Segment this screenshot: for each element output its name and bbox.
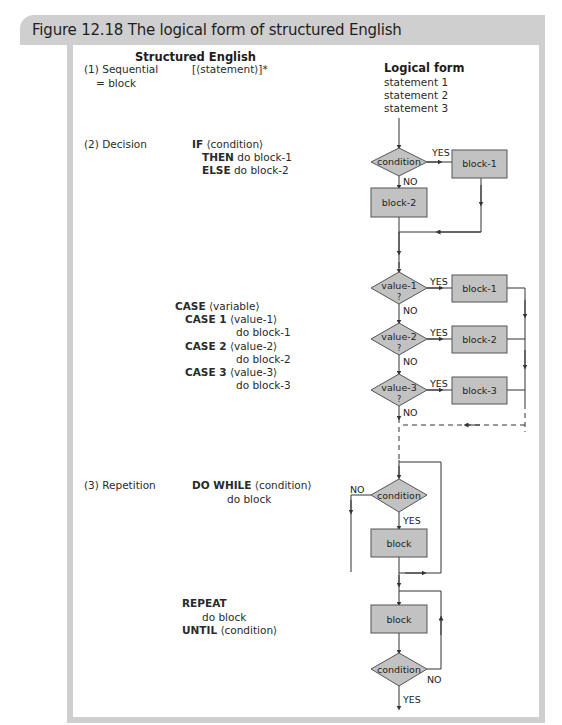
- repeat-condition-text: condition: [371, 664, 427, 675]
- decision-no-label: NO: [403, 176, 418, 187]
- case-no-1: NO: [403, 305, 418, 316]
- case-block-3-text: block-3: [452, 385, 507, 396]
- do-while-yes-label: YES: [403, 515, 421, 526]
- decision-block-2-text: block-2: [371, 197, 427, 208]
- case-yes-2: YES: [430, 327, 448, 338]
- repeat-block-text: block: [371, 614, 427, 625]
- case-no-3: NO: [403, 407, 418, 418]
- flowchart-canvas: [0, 0, 562, 725]
- do-while-no-label: NO: [350, 484, 365, 495]
- case-yes-1: YES: [430, 276, 448, 287]
- case-test-3-text: value-3: [371, 382, 427, 393]
- repeat-no-label: NO: [427, 674, 442, 685]
- case-block-2-text: block-2: [452, 334, 507, 345]
- case-test-1-text: value-1: [371, 280, 427, 291]
- case-yes-3: YES: [430, 378, 448, 389]
- case-test-2-text: value-2: [371, 331, 427, 342]
- case-test-2-question: ?: [371, 343, 427, 354]
- case-test-3-question: ?: [371, 394, 427, 405]
- do-while-block-text: block: [371, 538, 427, 549]
- decision-block-1-text: block-1: [452, 158, 507, 169]
- decision-condition-text: condition: [371, 156, 427, 167]
- case-test-1-question: ?: [371, 292, 427, 303]
- do-while-condition-text: condition: [371, 490, 427, 501]
- repeat-yes-label: YES: [403, 694, 421, 705]
- decision-yes-label: YES: [432, 147, 450, 158]
- case-no-2: NO: [403, 356, 418, 367]
- case-block-1-text: block-1: [452, 283, 507, 294]
